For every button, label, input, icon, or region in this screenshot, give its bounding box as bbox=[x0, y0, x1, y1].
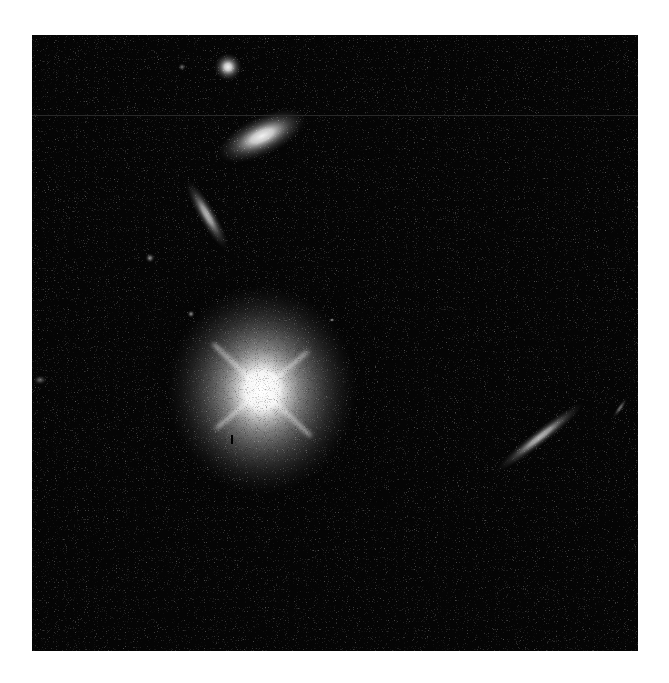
scan-line bbox=[32, 115, 638, 116]
astronomical-image bbox=[32, 35, 638, 651]
dark-artifact bbox=[231, 435, 233, 444]
dark-pixel-noise bbox=[162, 285, 382, 505]
sky-field bbox=[32, 35, 638, 651]
